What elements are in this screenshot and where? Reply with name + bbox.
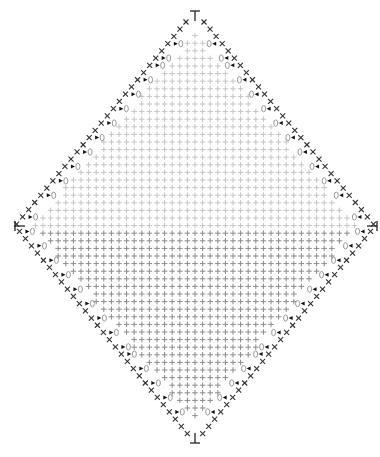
diamond-stitch-chart [0,0,380,457]
turning-marker-icon [15,221,25,231]
turning-marker-icon [190,11,200,21]
crochet-diagram [0,0,380,457]
turning-marker-icon [190,433,200,443]
